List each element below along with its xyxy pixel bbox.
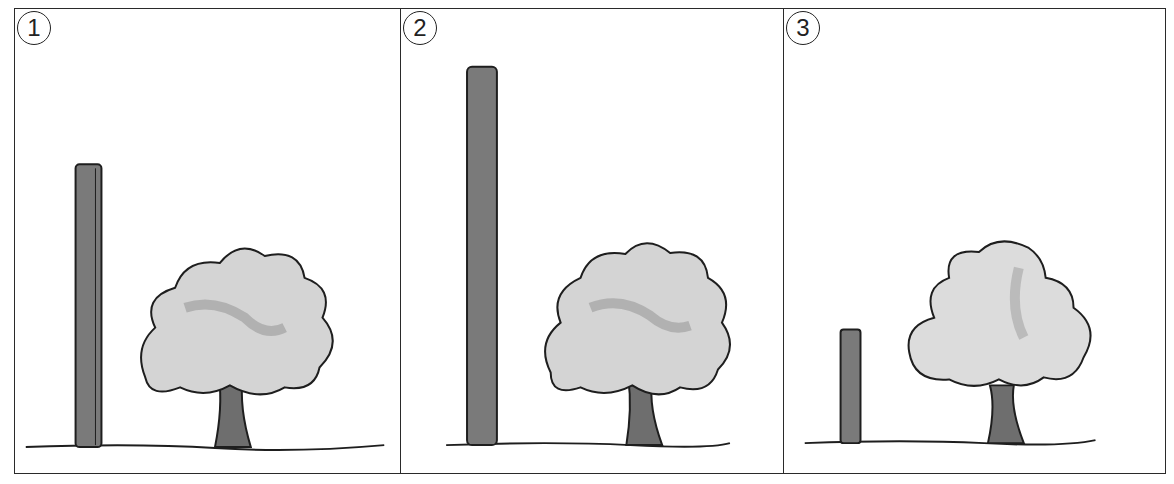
panel-2: 2 bbox=[400, 9, 783, 473]
panel-3: 3 bbox=[783, 9, 1165, 473]
tree-crown bbox=[909, 241, 1091, 385]
pole-and-tree-scene bbox=[784, 9, 1165, 473]
pole-and-tree-scene bbox=[401, 9, 783, 473]
pole bbox=[467, 67, 497, 445]
tree-crown bbox=[545, 243, 730, 394]
pole bbox=[841, 330, 861, 444]
pole-and-tree-scene bbox=[15, 9, 400, 473]
illustration-frame: 1 2 3 bbox=[14, 8, 1166, 474]
tree-crown bbox=[141, 248, 333, 394]
panel-1: 1 bbox=[15, 9, 400, 473]
pole bbox=[76, 164, 102, 447]
tree-trunk bbox=[988, 385, 1024, 443]
